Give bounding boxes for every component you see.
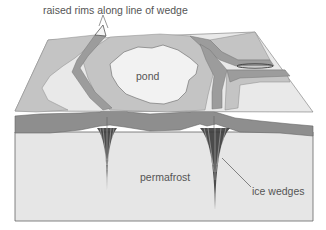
label-permafrost: permafrost	[140, 171, 190, 183]
label-pond: pond	[136, 70, 160, 82]
ice-wedge-block-diagram: raised rims along line of wedge pond per…	[0, 0, 326, 230]
raised-rim-peak	[95, 25, 106, 36]
raised-rims-leader-1	[99, 15, 103, 26]
label-ice-wedges: ice wedges	[252, 185, 305, 197]
raised-rims-leader-2	[103, 15, 108, 28]
label-raised-rims: raised rims along line of wedge	[43, 4, 188, 16]
